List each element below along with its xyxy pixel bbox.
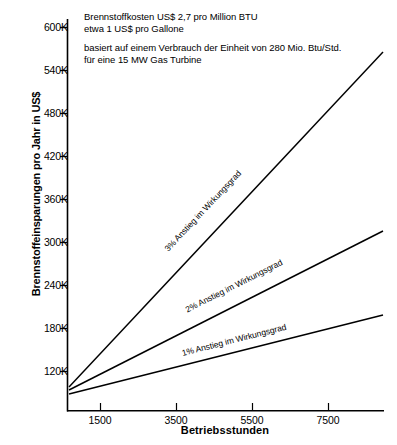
chart-container: 600K 540K 480K 420K 360K 300K 240K 180K … [0,0,397,445]
y-tick-label-180k: 180K [44,322,68,334]
y-tick-label-240k: 240K [44,279,68,291]
x-axis-ticks [101,403,329,411]
x-axis-title: Betriebsstunden [67,424,383,436]
annotation-paragraph-1: Brennstoffkosten US$ 2,7 pro Million BTU… [84,11,341,36]
y-tick-label-480k: 480K [44,107,68,119]
annotation-line-2: etwa 1 US$ pro Gallone [84,23,341,35]
y-tick-label-540k: 540K [44,64,68,76]
y-tick-label-120k: 120K [44,365,68,377]
annotation-line-1: Brennstoffkosten US$ 2,7 pro Million BTU [84,11,341,23]
y-tick-label-300k: 300K [44,236,68,248]
annotation-paragraph-2: basiert auf einem Verbrauch der Einheit … [84,42,341,67]
series-line-2-percent [69,231,383,390]
annotation-line-3: basiert auf einem Verbrauch der Einheit … [84,42,341,54]
chart-annotation: Brennstoffkosten US$ 2,7 pro Million BTU… [84,11,341,67]
y-axis-title: Brennstoffeinsparungen pro Jahr in US$ [30,74,42,314]
series-line-1-percent [69,315,383,394]
y-tick-label-360k: 360K [44,193,68,205]
y-tick-label-420k: 420K [44,150,68,162]
y-tick-label-600k: 600K [44,21,68,33]
annotation-line-4: für eine 15 MW Gas Turbine [84,54,341,66]
